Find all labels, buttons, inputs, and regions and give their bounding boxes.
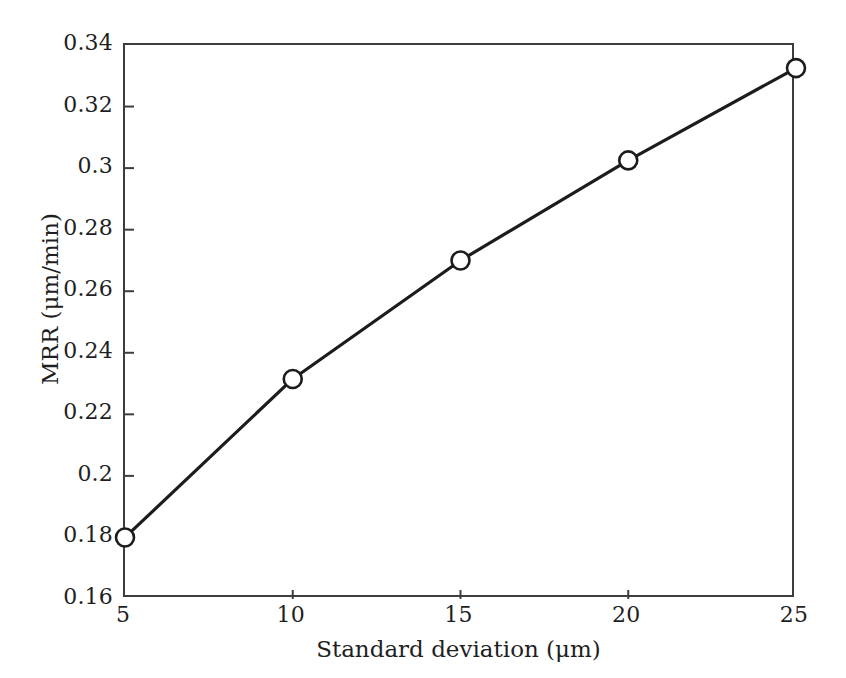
y-axis-title: MRR (μm/min) xyxy=(37,129,63,469)
y-axis-tick-label: 0.16 xyxy=(63,586,113,608)
x-axis-tick-label: 15 xyxy=(444,604,472,626)
chart-figure: 0.160.180.20.220.240.260.280.30.320.34 M… xyxy=(0,0,846,678)
x-axis-tick-label: 25 xyxy=(780,604,808,626)
data-point-marker xyxy=(787,59,805,77)
data-point-marker xyxy=(452,251,470,269)
plot-svg xyxy=(125,45,796,599)
axis-ticks-group xyxy=(125,107,628,599)
data-point-marker xyxy=(284,370,302,388)
data-point-marker xyxy=(116,528,134,546)
x-axis-tick-label: 10 xyxy=(277,604,305,626)
series-markers-group xyxy=(116,59,805,546)
y-axis-tick-label: 0.26 xyxy=(63,278,113,300)
y-axis-tick-label: 0.22 xyxy=(63,401,113,423)
plot-area xyxy=(123,43,794,597)
x-axis-tick-label: 20 xyxy=(612,604,640,626)
y-axis-tick-label: 0.28 xyxy=(63,217,113,239)
x-axis-tick-label: 5 xyxy=(116,604,130,626)
y-axis-tick-label: 0.2 xyxy=(77,463,113,485)
y-axis-tick-label: 0.3 xyxy=(77,155,113,177)
series-line-mrr xyxy=(125,68,796,537)
y-axis-tick-label: 0.24 xyxy=(63,340,113,362)
x-axis-title: Standard deviation (μm) xyxy=(123,636,794,662)
y-axis-tick-label: 0.18 xyxy=(63,524,113,546)
y-axis-tick-label: 0.32 xyxy=(63,94,113,116)
data-point-marker xyxy=(619,151,637,169)
y-axis-tick-label: 0.34 xyxy=(63,32,113,54)
